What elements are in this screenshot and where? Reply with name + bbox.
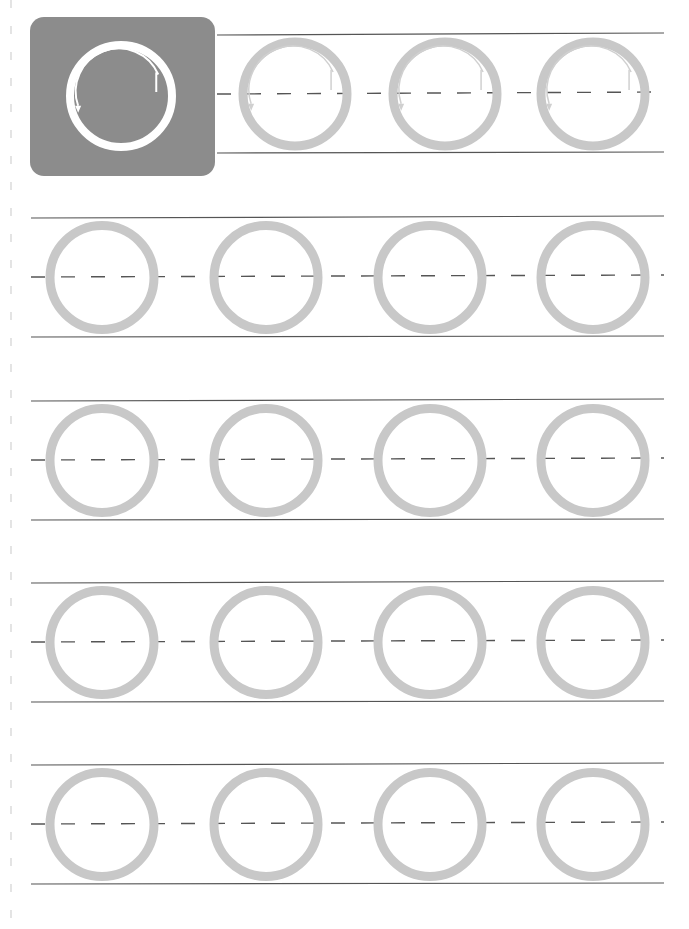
trace-letter-o — [393, 42, 497, 146]
trace-letter-o — [214, 409, 318, 513]
midline-dashed — [31, 640, 664, 642]
trace-letter-o — [214, 773, 318, 877]
midline-dashed — [31, 275, 664, 277]
midline-dashed — [31, 458, 664, 460]
top-guide-line — [31, 216, 664, 218]
baseline — [31, 519, 664, 520]
practice-row-1 — [217, 33, 664, 153]
trace-letter-o — [541, 409, 645, 513]
top-guide-line — [31, 399, 664, 401]
baseline — [31, 883, 664, 884]
trace-letter-o — [378, 773, 482, 877]
practice-row-2 — [31, 216, 664, 337]
trace-letter-o — [541, 42, 645, 146]
trace-letter-o — [541, 591, 645, 695]
trace-letter-o — [378, 226, 482, 330]
practice-row-4 — [31, 581, 664, 702]
trace-letter-o — [214, 591, 318, 695]
midline-dashed — [217, 92, 664, 94]
example-tile-background — [30, 17, 215, 176]
trace-letter-o — [378, 591, 482, 695]
midline-dashed — [31, 822, 664, 824]
baseline — [217, 152, 664, 153]
trace-letter-o — [541, 226, 645, 330]
trace-letter-o — [378, 409, 482, 513]
trace-letter-o — [214, 226, 318, 330]
example-tile — [30, 17, 215, 176]
baseline — [31, 701, 664, 702]
practice-row-5 — [31, 763, 664, 884]
top-guide-line — [31, 763, 664, 765]
practice-row-3 — [31, 399, 664, 520]
baseline — [31, 336, 664, 337]
top-guide-line — [31, 581, 664, 583]
trace-letter-o — [541, 773, 645, 877]
tracing-worksheet — [0, 0, 689, 929]
top-guide-line — [217, 33, 664, 35]
